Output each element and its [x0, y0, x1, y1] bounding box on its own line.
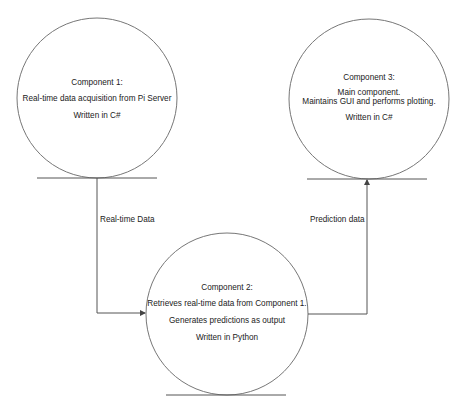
- diagram-canvas: [0, 0, 457, 409]
- component-1-language: Written in C#: [57, 111, 137, 121]
- component-2-description-1: Retrieves real-time data from Component …: [142, 299, 312, 309]
- component-3-description-2: Maintains GUI and performs plotting.: [299, 97, 439, 107]
- component-2-description-2: Generates predictions as output: [157, 316, 297, 326]
- edge-label-prediction-data: Prediction data: [310, 215, 365, 224]
- component-3-language: Written in C#: [319, 113, 419, 123]
- component-1-description: Real-time data acquisition from Pi Serve…: [17, 94, 177, 104]
- edge-prediction-data: [308, 180, 367, 314]
- component-1-title: Component 1:: [57, 78, 137, 88]
- edge-label-realtime-data: Real-time Data: [100, 215, 155, 224]
- component-2-language: Written in Python: [177, 333, 277, 343]
- component-2-title: Component 2:: [187, 283, 267, 293]
- edge-realtime-data: [97, 178, 145, 313]
- component-2-node: [146, 233, 308, 395]
- component-3-title: Component 3:: [319, 73, 419, 83]
